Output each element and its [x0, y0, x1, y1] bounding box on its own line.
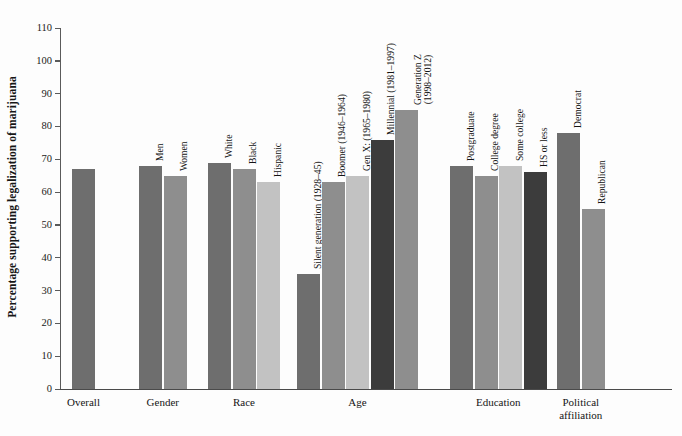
- y-axis-tick-label: 40: [22, 253, 52, 264]
- bar-label: College degree: [490, 113, 500, 171]
- y-axis-tick: [55, 224, 60, 225]
- bar: [164, 176, 187, 389]
- plot-area: MenWomenWhiteBlackHispanicSilent generat…: [60, 28, 672, 389]
- bar-label: Democrat: [573, 90, 583, 128]
- y-axis-tick-label: 110: [22, 23, 52, 34]
- bar: [499, 166, 522, 389]
- bar: [582, 209, 605, 390]
- y-axis-tick: [55, 93, 60, 94]
- x-axis-line: [60, 389, 672, 390]
- bar-label: HS or less: [539, 128, 549, 167]
- y-axis-tick-label: 70: [22, 154, 52, 165]
- bar-label: Republican: [597, 160, 607, 204]
- y-axis-line: [60, 28, 61, 390]
- bar: [524, 172, 547, 389]
- y-axis-tick: [55, 126, 60, 127]
- y-axis-tick: [55, 323, 60, 324]
- bar: [322, 182, 345, 389]
- bar-label: Some college: [515, 109, 525, 161]
- y-axis-tick-label: 10: [22, 351, 52, 362]
- y-axis-tick-label: 20: [22, 318, 52, 329]
- bar: [297, 274, 320, 389]
- y-axis-tick-label: 0: [22, 384, 52, 395]
- bar-label: Hispanic: [273, 143, 283, 177]
- bar-label: White: [224, 134, 234, 157]
- bar-label: Women: [179, 141, 189, 171]
- bar: [208, 163, 231, 389]
- y-axis-tick-labels: 0102030405060708090100110: [20, 28, 52, 390]
- bar: [346, 176, 369, 389]
- y-axis-tick-label: 30: [22, 286, 52, 297]
- bar: [475, 176, 498, 389]
- y-axis-tick: [55, 389, 60, 390]
- x-axis-group-label: Race: [194, 396, 294, 409]
- x-axis-group-label: Age: [308, 396, 408, 409]
- y-axis-tick-label: 50: [22, 220, 52, 231]
- y-axis-tick: [55, 356, 60, 357]
- y-axis-tick-label: 60: [22, 187, 52, 198]
- y-axis-tick: [55, 257, 60, 258]
- bar: [395, 110, 418, 389]
- bar-label: Men: [155, 143, 165, 161]
- bar-label: Boomer (1946–1964): [337, 94, 347, 177]
- y-axis-tick: [55, 290, 60, 291]
- y-axis-tick: [55, 159, 60, 160]
- x-axis-group-label: Political affiliation: [531, 396, 631, 421]
- bar-label: Black: [248, 142, 258, 164]
- y-axis-tick-label: 90: [22, 89, 52, 100]
- y-axis-tick: [55, 28, 60, 29]
- y-axis-tick: [55, 192, 60, 193]
- y-axis-tick-label: 100: [22, 56, 52, 67]
- bar: [72, 169, 95, 389]
- y-axis-tick: [55, 60, 60, 61]
- bar-chart: Percentage supporting legalization of ma…: [0, 0, 682, 436]
- bar: [233, 169, 256, 389]
- bar: [139, 166, 162, 389]
- bar-label: Generation Z(1998–2012): [413, 54, 432, 105]
- bar: [371, 140, 394, 389]
- bar-label: Postgraduate: [466, 111, 476, 161]
- y-axis-tick-label: 80: [22, 121, 52, 132]
- bar: [257, 182, 280, 389]
- bar: [557, 133, 580, 389]
- bar: [450, 166, 473, 389]
